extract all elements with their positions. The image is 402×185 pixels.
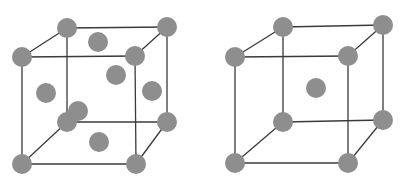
corner-atom xyxy=(12,47,32,67)
corner-atom xyxy=(373,110,393,130)
face-center-atom xyxy=(89,132,109,152)
face-center-atom xyxy=(106,65,126,85)
cube-edge xyxy=(235,56,348,57)
corner-atom xyxy=(225,153,245,173)
corner-atom xyxy=(157,112,177,132)
corner-atom xyxy=(57,18,77,38)
face-center-atom xyxy=(142,81,162,101)
cube-edge xyxy=(135,56,136,164)
corner-atom xyxy=(273,112,293,132)
corner-atom xyxy=(373,15,393,35)
face-center-atom xyxy=(68,101,88,121)
body-center-atom xyxy=(306,78,326,98)
unit-cells-diagram xyxy=(0,0,402,185)
cube-edge xyxy=(283,120,383,122)
cube-edge xyxy=(67,27,167,28)
corner-atom xyxy=(12,154,32,174)
bcc-unit-cell xyxy=(225,15,393,173)
corner-atom xyxy=(126,154,146,174)
corner-atom xyxy=(157,17,177,37)
corner-atom xyxy=(225,47,245,67)
face-center-atom xyxy=(88,32,108,52)
cube-edge xyxy=(22,56,135,57)
corner-atom xyxy=(273,17,293,37)
corner-atom xyxy=(338,46,358,66)
corner-atom xyxy=(338,153,358,173)
face-center-atom xyxy=(36,83,56,103)
cube-edge xyxy=(283,25,383,27)
corner-atom xyxy=(125,46,145,66)
fcc-unit-cell xyxy=(12,17,177,174)
